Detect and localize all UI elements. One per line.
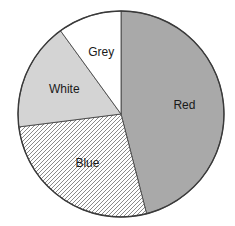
slice-label-blue: Blue	[75, 156, 99, 170]
slice-label-red: Red	[173, 98, 195, 112]
pie-chart: RedBlueWhiteGrey	[0, 0, 235, 226]
pie-slices	[18, 11, 224, 217]
slice-label-white: White	[49, 82, 80, 96]
slice-label-grey: Grey	[88, 45, 114, 59]
